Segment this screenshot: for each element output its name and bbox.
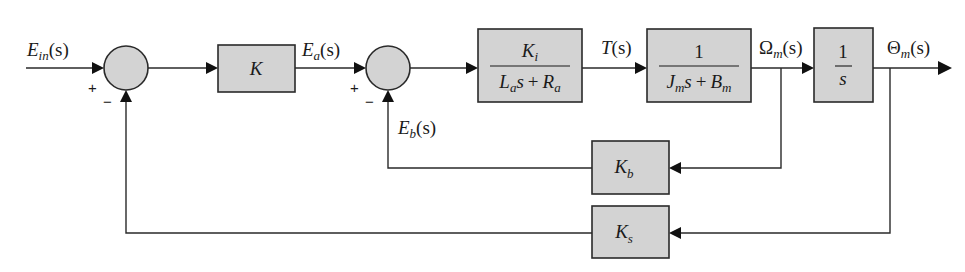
block-back-emf: Kb <box>592 141 669 194</box>
sum1-circle <box>104 46 148 90</box>
arrow-into-sum2-icon <box>354 62 366 74</box>
arrow-into-armature-icon <box>466 62 478 74</box>
block-mechanical: 1 Jms+Bm <box>647 29 751 102</box>
block-gain-k: K <box>218 45 295 92</box>
arrow-into-k-icon <box>206 62 218 74</box>
signal-label-eb: Eb(s) <box>397 117 436 141</box>
armature-denominator: Las+Ra <box>498 71 561 95</box>
mechanical-numerator: 1 <box>694 41 704 62</box>
summing-junction-2: + − <box>350 46 410 110</box>
arrow-into-integrator-icon <box>802 62 814 74</box>
signal-label-theta: Θm(s) <box>887 37 930 61</box>
sensor-feedback-wire <box>126 100 592 233</box>
arrow-into-sum1-icon <box>92 62 104 74</box>
arrow-into-mechanical-icon <box>635 62 647 74</box>
sum2-plus-sign: + <box>350 79 359 96</box>
integrator-numerator: 1 <box>838 41 848 62</box>
arrow-output-icon <box>938 61 952 75</box>
arrow-into-ks-icon <box>669 227 681 239</box>
signal-label-torque: T(s) <box>601 37 632 59</box>
block-diagram: + − + − K Ki Las+Ra 1 Jms+Bm 1 s Kb <box>0 0 965 272</box>
block-integrator: 1 s <box>814 28 873 102</box>
summing-junction-1: + − <box>88 46 148 110</box>
sum1-plus-sign: + <box>88 79 97 96</box>
sum2-circle <box>366 46 410 90</box>
arrow-into-kb-icon <box>669 162 681 174</box>
block-sensor: Ks <box>592 206 669 258</box>
signal-label-omega: Ωm(s) <box>759 37 803 61</box>
sum1-minus-sign: − <box>103 93 112 110</box>
signal-label-ea: Ea(s) <box>301 39 340 63</box>
signal-label-ein: Ein(s) <box>26 39 69 63</box>
arrow-up-sum2-icon <box>382 90 394 102</box>
gain-k-label: K <box>249 58 264 79</box>
sum2-minus-sign: − <box>365 93 374 110</box>
arrow-up-sum1-icon <box>120 90 132 102</box>
integrator-denominator: s <box>839 68 846 89</box>
block-armature: Ki Las+Ra <box>478 29 582 102</box>
integrator-box <box>814 28 873 102</box>
